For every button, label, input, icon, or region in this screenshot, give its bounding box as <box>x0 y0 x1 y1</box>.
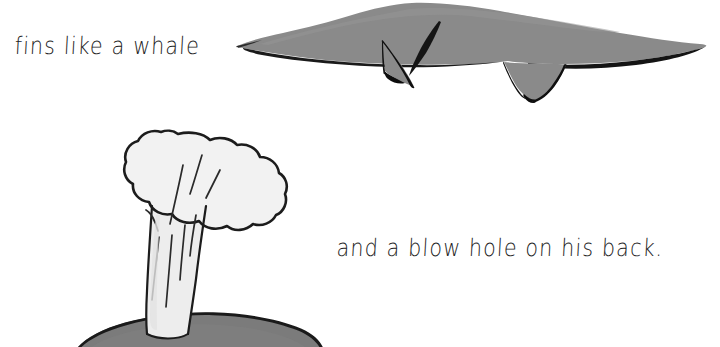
whale-back-group <box>78 312 323 347</box>
whale-body-highlight <box>260 8 620 45</box>
spout-column <box>146 205 206 338</box>
whale-back-dome-shade <box>92 324 305 347</box>
spout-streak-6 <box>166 235 172 307</box>
spout-streaks <box>146 155 220 307</box>
whale-fin-right-outline <box>525 64 567 103</box>
spout-streak-1 <box>146 210 158 231</box>
spout-streak-4 <box>206 170 220 198</box>
spout-streak-5 <box>152 237 159 300</box>
spout-cloud-outline <box>124 131 287 230</box>
whale-group <box>236 3 706 103</box>
whale-fin-left-outline <box>382 40 415 88</box>
whale-underside-outline <box>243 48 500 67</box>
spout-streak-2 <box>170 165 183 224</box>
spout-column-base-outline <box>147 334 188 339</box>
whale-tail-tip-outline <box>236 40 262 48</box>
whale-back-outline <box>78 312 323 347</box>
spout-streak-3 <box>190 155 202 194</box>
whale-head-outline <box>528 47 705 69</box>
whale-fin-left <box>383 41 414 87</box>
spout-column-shade <box>150 215 160 330</box>
whale-body-crease <box>409 21 441 76</box>
spout-cloud <box>124 131 287 230</box>
spout-column-left-outline <box>146 206 152 334</box>
whale-fin-left-edge <box>382 41 396 79</box>
whale-fin-left-tip <box>385 72 405 84</box>
caption-blow-hole-on-his-back: and a blow hole on his back. <box>336 237 664 261</box>
whale-body <box>236 3 706 65</box>
spout-streak-8 <box>190 215 196 256</box>
illustration-page: fins like a whale and a blow hole on his… <box>0 0 720 347</box>
spout-group <box>124 131 287 339</box>
blowhole-shadow <box>155 334 175 338</box>
caption-fins-like-a-whale: fins like a whale <box>14 35 201 59</box>
spout-streak-7 <box>180 225 185 280</box>
whale-fin-right-tip <box>523 94 536 103</box>
whale-fin-right <box>504 62 566 101</box>
blowhole-mark <box>153 329 181 335</box>
spout-column-right-outline <box>188 206 206 334</box>
whale-fin-right-inner-edge <box>503 62 526 100</box>
whale-back-dome <box>78 313 322 347</box>
